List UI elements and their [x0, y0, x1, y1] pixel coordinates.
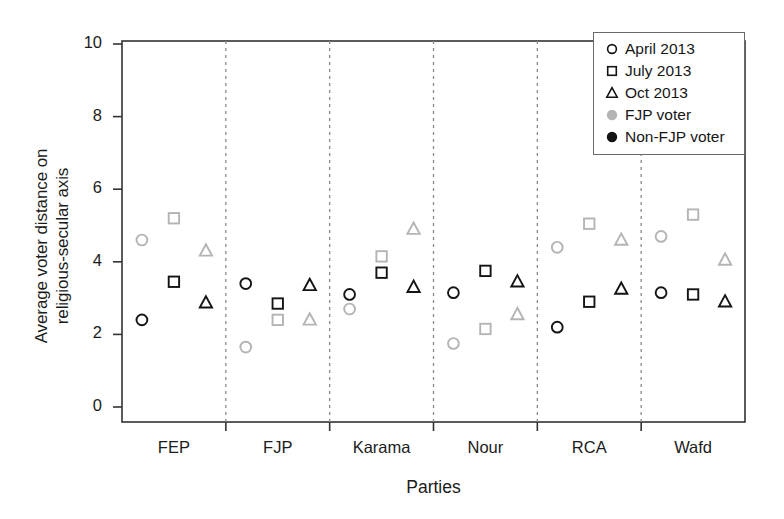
x-tick-label-wafd: Wafd — [674, 438, 712, 457]
data-point-marker — [688, 209, 698, 219]
data-point-marker — [615, 282, 627, 293]
legend-item: Non-FJP voter — [603, 126, 738, 148]
y-tick-label: 0 — [68, 396, 102, 415]
data-point-marker — [240, 342, 251, 353]
legend: April 2013July 2013Oct 2013FJP voterNon-… — [593, 32, 745, 155]
data-point-marker — [448, 287, 459, 298]
data-point-marker — [137, 314, 148, 325]
y-axis-label: Average voter distance on religious-secu… — [31, 76, 73, 416]
data-point-marker — [200, 296, 212, 307]
data-point-marker — [656, 231, 667, 242]
data-point-marker — [200, 244, 212, 255]
scatter-plot-figure: Average voter distance on religious-secu… — [0, 0, 784, 519]
data-point-marker — [511, 308, 523, 319]
data-point-marker — [169, 277, 179, 287]
data-point-marker — [273, 315, 283, 325]
triangle-marker-icon — [603, 84, 621, 102]
data-point-marker — [304, 279, 316, 290]
y-tick-label: 8 — [68, 106, 102, 125]
data-point-marker — [304, 313, 316, 324]
square-marker-icon — [603, 62, 621, 80]
legend-label: April 2013 — [625, 40, 695, 58]
data-point-marker — [344, 304, 355, 315]
data-point-marker — [376, 267, 386, 277]
data-point-marker — [656, 287, 667, 298]
y-tick-label: 10 — [68, 33, 102, 52]
y-axis-label-line1: Average voter distance on — [31, 76, 52, 416]
data-point-marker — [552, 322, 563, 333]
data-point-marker — [688, 289, 698, 299]
data-point-marker — [137, 235, 148, 246]
data-point-marker — [511, 275, 523, 286]
legend-item: FJP voter — [603, 104, 738, 126]
legend-label: Non-FJP voter — [625, 128, 725, 146]
legend-item: July 2013 — [603, 60, 738, 82]
x-tick-label-rca: RCA — [572, 438, 607, 457]
legend-label: July 2013 — [625, 62, 691, 80]
legend-label: Oct 2013 — [625, 84, 688, 102]
y-tick-label: 4 — [68, 251, 102, 270]
x-tick-label-nour: Nour — [468, 438, 504, 457]
x-axis-label: Parties — [122, 477, 745, 498]
data-point-marker — [169, 213, 179, 223]
y-tick-label: 2 — [68, 323, 102, 342]
data-point-marker — [552, 242, 563, 253]
data-point-marker — [480, 266, 490, 276]
data-point-marker — [344, 289, 355, 300]
y-tick-label: 6 — [68, 178, 102, 197]
y-axis-label-line2: religious-secular axis — [52, 76, 73, 416]
data-point-marker — [480, 324, 490, 334]
legend-item: April 2013 — [603, 38, 738, 60]
x-tick-label-fjp: FJP — [263, 438, 292, 457]
data-point-marker — [273, 298, 283, 308]
x-tick-label-karama: Karama — [353, 438, 411, 457]
circle-marker-icon — [603, 40, 621, 58]
data-point-marker — [615, 233, 627, 244]
legend-label: FJP voter — [625, 106, 691, 124]
data-point-marker — [719, 253, 731, 264]
data-point-marker — [584, 218, 594, 228]
data-point-marker — [407, 281, 419, 292]
legend-item: Oct 2013 — [603, 82, 738, 104]
circle-marker-icon — [603, 106, 621, 124]
circle-marker-icon — [603, 128, 621, 146]
category-dividers — [226, 41, 641, 431]
x-tick-label-fep: FEP — [158, 438, 190, 457]
data-point-marker — [407, 223, 419, 234]
data-point-marker — [240, 278, 251, 289]
data-point-marker — [719, 295, 731, 306]
data-point-marker — [448, 338, 459, 349]
data-point-marker — [584, 297, 594, 307]
data-point-marker — [376, 251, 386, 261]
